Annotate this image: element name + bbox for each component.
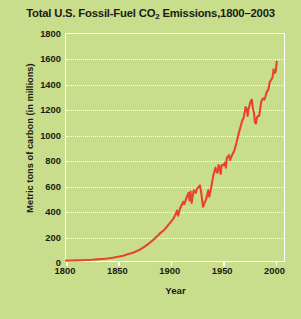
y-tick-label: 1400 xyxy=(1,78,61,89)
data-series-line xyxy=(66,34,284,261)
chart-figure: Total U.S. Fossil-Fuel CO2 Emissions,180… xyxy=(0,0,301,319)
x-tick-label: 1950 xyxy=(192,265,252,276)
emissions-line xyxy=(66,62,277,261)
y-tick-label: 1800 xyxy=(1,28,61,39)
y-tick-label: 800 xyxy=(1,155,61,166)
x-tick-label: 1900 xyxy=(140,265,200,276)
y-tick-label: 1600 xyxy=(1,53,61,64)
chart-title-subscript: 2 xyxy=(155,12,159,21)
plot-area xyxy=(65,33,285,262)
x-tick-label: 1850 xyxy=(87,265,147,276)
y-tick-label: 1000 xyxy=(1,129,61,140)
y-tick-label: 200 xyxy=(1,231,61,242)
y-tick-label: 400 xyxy=(1,206,61,217)
chart-title-tail: Emissions,1800–2003 xyxy=(160,7,275,19)
x-axis-label: Year xyxy=(65,285,286,296)
y-tick-label: 600 xyxy=(1,180,61,191)
x-tick-label: 2000 xyxy=(245,265,301,276)
chart-title-main: Total U.S. Fossil-Fuel CO xyxy=(26,7,155,19)
x-tick-label: 1800 xyxy=(35,265,95,276)
y-tick-label: 1200 xyxy=(1,104,61,115)
chart-title: Total U.S. Fossil-Fuel CO2 Emissions,180… xyxy=(0,7,301,19)
